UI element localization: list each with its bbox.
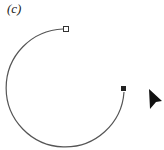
filled-anchor-icon bbox=[121, 86, 126, 91]
open-anchor-icon bbox=[64, 27, 69, 32]
arc-diagram bbox=[0, 0, 164, 150]
arc-path bbox=[6, 29, 124, 147]
cursor-arrow-icon bbox=[149, 89, 162, 109]
